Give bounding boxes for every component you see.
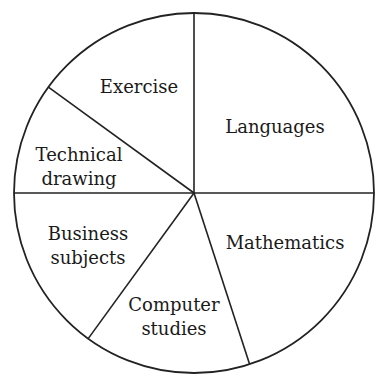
pie-chart: LanguagesMathematicsComputerstudiesBusin… <box>0 0 376 383</box>
slice-label-mathematics: Mathematics <box>226 232 345 253</box>
slice-label-languages: Languages <box>225 116 325 137</box>
slice-label-exercise: Exercise <box>100 76 178 97</box>
